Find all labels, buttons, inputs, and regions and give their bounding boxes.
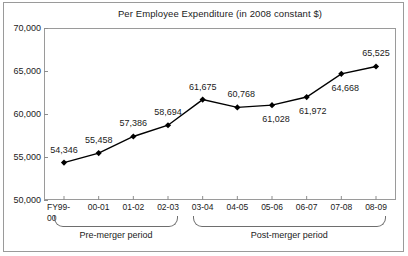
data-point-value-label: 58,694 — [154, 107, 182, 117]
period-bracket-group: Pre-merger period Post-merger period — [44, 216, 396, 254]
data-point-value-label: 61,972 — [299, 106, 327, 116]
series-line — [64, 66, 376, 162]
data-point-value-label: 55,458 — [85, 135, 113, 145]
post-merger-group: Post-merger period — [193, 216, 386, 252]
y-tick-label: 65,000 — [1, 66, 41, 76]
data-point-value-label: 57,386 — [120, 118, 148, 128]
y-tick-label: 60,000 — [1, 109, 41, 119]
chart-title: Per Employee Expenditure (in 2008 consta… — [44, 8, 396, 19]
y-tick-mark — [44, 71, 48, 72]
data-point-value-label: 64,668 — [332, 83, 360, 93]
post-merger-bracket-icon — [193, 216, 386, 227]
pre-merger-label: Pre-merger period — [54, 230, 178, 240]
data-point-value-label: 60,768 — [228, 89, 256, 99]
data-point-marker — [269, 102, 275, 108]
y-tick-label: 50,000 — [1, 195, 41, 205]
data-point-marker — [234, 104, 240, 110]
pre-merger-bracket-icon — [54, 216, 178, 227]
pre-merger-group: Pre-merger period — [54, 216, 178, 252]
data-point-value-label: 61,028 — [262, 114, 290, 124]
data-point-marker — [130, 133, 136, 139]
y-tick-mark — [44, 28, 48, 29]
y-tick-mark — [44, 200, 48, 201]
y-axis-tick-labels: 70,00065,00060,00055,00050,000 — [0, 28, 41, 200]
data-point-marker — [96, 150, 102, 156]
chart-figure: Per Employee Expenditure (in 2008 consta… — [0, 0, 408, 256]
data-point-marker — [61, 160, 67, 166]
data-point-value-label: 65,525 — [362, 48, 390, 58]
y-tick-mark — [44, 157, 48, 158]
data-point-value-label: 61,675 — [189, 82, 217, 92]
post-merger-label: Post-merger period — [193, 230, 386, 240]
x-tick-label: 08-09 — [350, 202, 402, 213]
y-tick-mark — [44, 114, 48, 115]
y-tick-label: 70,000 — [1, 23, 41, 33]
data-point-value-label: 54,346 — [50, 145, 78, 155]
line-series-svg — [44, 28, 396, 200]
y-tick-label: 55,000 — [1, 152, 41, 162]
data-point-marker — [373, 63, 379, 69]
